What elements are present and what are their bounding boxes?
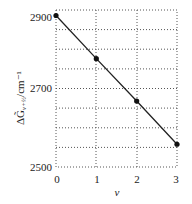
- data-point: [174, 142, 179, 147]
- x-tick-0: 0: [54, 173, 60, 185]
- y-tick-2500: 2500: [30, 161, 53, 173]
- chart: 2900 2700 2500 0 1 2 3 v ΔG̃v+½/cm⁻¹: [0, 0, 192, 204]
- data-point: [94, 56, 99, 61]
- y-tick-2700: 2700: [30, 82, 53, 94]
- data-series: [53, 13, 179, 147]
- y-tick-2900: 2900: [30, 11, 53, 23]
- data-point: [53, 13, 58, 18]
- x-axis-label: v: [115, 186, 120, 198]
- data-point: [134, 98, 139, 103]
- y-axis-label: ΔG̃v+½/cm⁻¹: [14, 71, 28, 125]
- x-tick-2: 2: [134, 173, 140, 185]
- x-tick-3: 3: [173, 173, 179, 185]
- x-tick-1: 1: [94, 173, 100, 185]
- grid: [56, 10, 177, 167]
